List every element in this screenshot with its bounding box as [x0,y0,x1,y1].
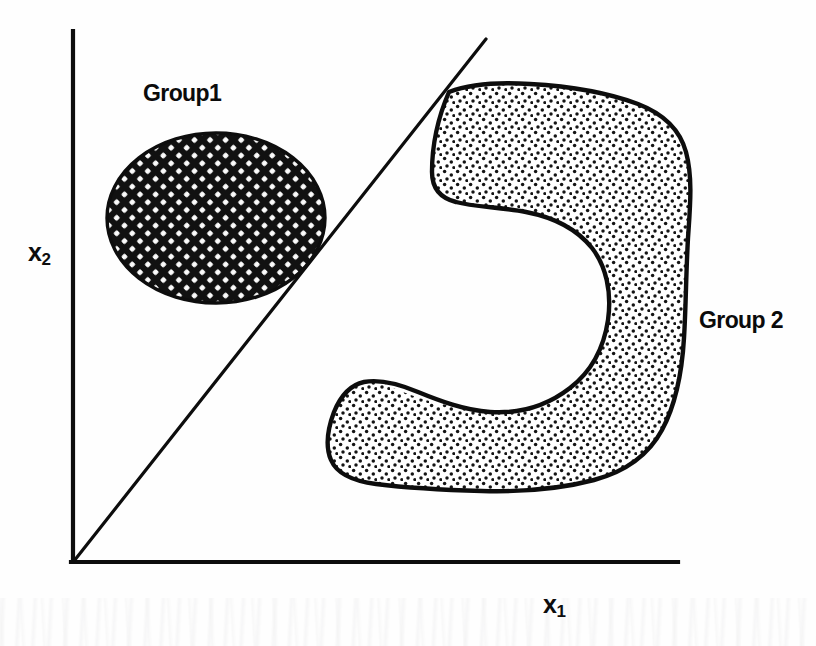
group2-label: Group 2 [699,307,783,334]
separation-diagram [0,0,816,646]
figure-canvas: x2 x1 Group1 Group 2 [0,0,816,646]
group1-label: Group1 [143,80,221,107]
group1-ellipse [107,133,325,303]
group1-region [107,133,325,303]
group2-region [300,60,720,520]
x-axis-label: x1 [543,590,565,619]
y-axis-label: x2 [28,238,50,267]
